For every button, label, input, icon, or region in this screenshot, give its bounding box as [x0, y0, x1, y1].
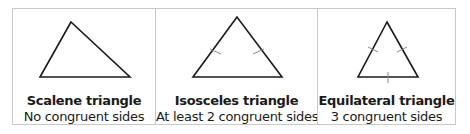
isosceles-triangle-figure [156, 9, 318, 93]
panel-scalene: Scalene triangle No congruent sides [13, 9, 155, 124]
panel-subtitle: At least 2 congruent sides [156, 109, 317, 124]
panel-title: Equilateral triangle [318, 93, 455, 108]
panel-equilateral: Equilateral triangle 3 congruent sides [317, 9, 455, 124]
scalene-triangle-figure [13, 9, 155, 93]
equilateral-triangle-figure [318, 9, 456, 93]
panel-title: Scalene triangle [13, 93, 155, 108]
panel-title: Isosceles triangle [156, 93, 317, 108]
isosceles-triangle-shape [193, 17, 282, 77]
equilateral-triangle-shape [358, 22, 418, 77]
panel-subtitle: No congruent sides [13, 109, 155, 124]
panel-isosceles: Isosceles triangle At least 2 congruent … [155, 9, 317, 124]
scalene-triangle-shape [40, 22, 130, 77]
panel-subtitle: 3 congruent sides [318, 109, 455, 124]
triangle-types-diagram: Scalene triangle No congruent sides Isos… [12, 8, 456, 125]
